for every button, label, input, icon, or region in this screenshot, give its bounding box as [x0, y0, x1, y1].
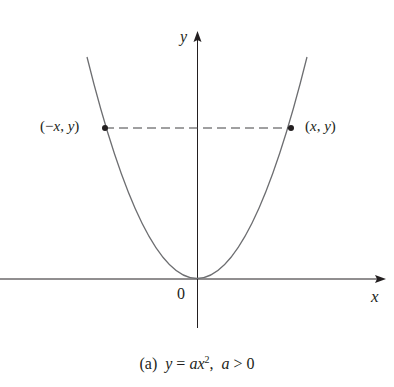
- paren-close: ): [74, 118, 79, 134]
- caption-label: (a): [139, 355, 157, 372]
- x-axis-label: x: [371, 287, 379, 307]
- caption-sep: ,: [209, 355, 217, 372]
- caption-cond-val: 0: [247, 355, 255, 372]
- origin-label: 0: [177, 285, 185, 303]
- figure-caption: (a) y = ax2, a > 0: [0, 354, 394, 373]
- cropped-text-glyphs: [0, 0, 394, 5]
- coord-y: y: [324, 118, 331, 134]
- comma: ,: [60, 118, 68, 134]
- y-axis-label: y: [180, 28, 187, 46]
- point-left: [102, 125, 108, 131]
- point-left-label: (−x, y): [40, 118, 79, 135]
- cropped-text-line: [0, 0, 394, 5]
- point-right-label: (x, y): [305, 118, 336, 135]
- paren-close: ): [331, 118, 336, 134]
- parabola-plot: [0, 0, 394, 387]
- caption-equals: =: [172, 355, 189, 372]
- parabola-figure: y (−x, y) (x, y) 0 x (a) y = ax2, a > 0: [0, 0, 394, 387]
- point-right: [288, 125, 294, 131]
- coord-x: x: [310, 118, 317, 134]
- caption-cond-op: >: [229, 355, 246, 372]
